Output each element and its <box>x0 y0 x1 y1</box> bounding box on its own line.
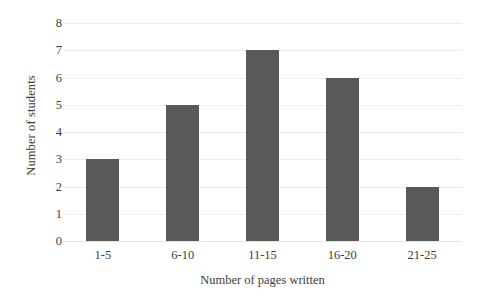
y-axis-tick-label: 7 <box>56 44 62 57</box>
bar[interactable] <box>166 105 199 241</box>
x-axis-tick-label: 16-20 <box>328 248 357 263</box>
bar[interactable] <box>86 159 119 241</box>
bar[interactable] <box>246 50 279 241</box>
bar[interactable] <box>406 187 439 242</box>
plot-area <box>63 23 462 241</box>
bar[interactable] <box>326 78 359 242</box>
x-axis-title: Number of pages written <box>63 273 462 288</box>
gridline <box>63 241 462 242</box>
y-axis-tick-label: 5 <box>56 99 62 112</box>
bars-group <box>63 23 462 241</box>
x-axis-tick-labels: 1-56-1011-1516-2021-25 <box>63 248 462 266</box>
y-axis-title-text: Number of students <box>24 75 39 175</box>
y-axis-tick-label: 0 <box>56 235 62 248</box>
x-axis-tick-label: 21-25 <box>408 248 437 263</box>
y-axis-tick-label: 2 <box>56 180 62 193</box>
x-axis-tick-label: 11-15 <box>248 248 277 263</box>
x-axis-title-text: Number of pages written <box>200 273 325 287</box>
y-axis-tick-label: 6 <box>56 71 62 84</box>
y-axis-tick-label: 4 <box>56 126 62 139</box>
y-axis-tick-label: 1 <box>56 208 62 221</box>
y-axis-tick-labels: 012345678 <box>38 0 62 301</box>
bar-chart: Number of students 012345678 1-56-1011-1… <box>0 0 482 301</box>
y-axis-tick-label: 8 <box>56 17 62 30</box>
x-axis-tick-label: 1-5 <box>95 248 112 263</box>
y-axis-tick-label: 3 <box>56 153 62 166</box>
x-axis-tick-label: 6-10 <box>171 248 194 263</box>
